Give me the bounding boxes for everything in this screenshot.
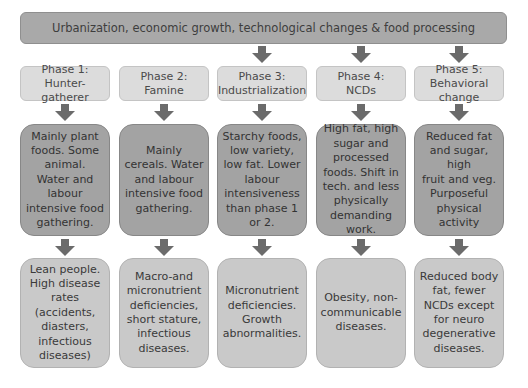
arrow-down-icon — [449, 104, 469, 121]
arrow-down-icon — [449, 46, 469, 63]
arrow-down-icon — [252, 239, 272, 256]
arrow-down-icon — [154, 239, 174, 256]
arrow-down-icon — [449, 239, 469, 256]
arrow-down-icon — [55, 104, 75, 121]
phase-4-diet-box: High fat, high sugar and processed foods… — [316, 124, 406, 236]
phase-5-diet: Reduced fat and sugar, high fruit and ve… — [418, 130, 500, 231]
phase-1-label: Phase 1: Hunter-gatherer — [21, 63, 109, 105]
phase-2-diet-box: Mainly cereals. Water and labour intensi… — [119, 124, 209, 236]
phase-4-label: Phase 4: NCDs — [337, 70, 384, 98]
arrow-down-icon — [351, 46, 371, 63]
phase-4-outcome: Obesity, non- communicable diseases. — [321, 291, 402, 334]
phase-3-label: Phase 3: Industrialization — [218, 70, 306, 98]
phase-3-diet-box: Starchy foods, low variety, low fat. Low… — [217, 124, 307, 236]
phase-5-diet-box: Reduced fat and sugar, high fruit and ve… — [414, 124, 504, 236]
phase-2-outcome: Macro-and micronutrient deficiencies, sh… — [127, 270, 202, 356]
arrow-down-icon — [351, 239, 371, 256]
phase-1-outcome: Lean people. High disease rates (acciden… — [30, 263, 101, 364]
arrow-down-icon — [55, 239, 75, 256]
phase-5-box: Phase 5: Behavioral change — [414, 66, 504, 101]
phase-4-diet: High fat, high sugar and processed foods… — [323, 122, 400, 237]
phase-5-outcome-box: Reduced body fat, fewer NCDs except for … — [414, 258, 504, 368]
phase-4-outcome-box: Obesity, non- communicable diseases. — [316, 258, 406, 368]
phase-2-diet: Mainly cereals. Water and labour intensi… — [125, 144, 204, 216]
phase-5-outcome: Reduced body fat, fewer NCDs except for … — [420, 270, 498, 356]
banner-drivers: Urbanization, economic growth, technolog… — [20, 12, 507, 44]
phase-3-box: Phase 3: Industrialization — [217, 66, 307, 101]
phase-1-diet-box: Mainly plant foods. Some animal. Water a… — [20, 124, 110, 236]
phase-2-label: Phase 2: Famine — [140, 70, 187, 98]
phase-5-label: Phase 5: Behavioral change — [415, 63, 503, 105]
phase-3-diet: Starchy foods, low variety, low fat. Low… — [223, 130, 302, 231]
phase-4-box: Phase 4: NCDs — [316, 66, 406, 101]
phase-1-outcome-box: Lean people. High disease rates (acciden… — [20, 258, 110, 368]
arrow-down-icon — [154, 104, 174, 121]
phase-3-outcome: Micronutrient deficiencies. Growth abnor… — [223, 284, 302, 342]
arrow-down-icon — [252, 104, 272, 121]
phase-2-outcome-box: Macro-and micronutrient deficiencies, sh… — [119, 258, 209, 368]
phase-1-box: Phase 1: Hunter-gatherer — [20, 66, 110, 101]
arrow-down-icon — [252, 46, 272, 63]
arrow-down-icon — [351, 104, 371, 121]
phase-2-box: Phase 2: Famine — [119, 66, 209, 101]
phase-1-diet: Mainly plant foods. Some animal. Water a… — [26, 130, 104, 231]
banner-text: Urbanization, economic growth, technolog… — [52, 21, 475, 35]
phase-3-outcome-box: Micronutrient deficiencies. Growth abnor… — [217, 258, 307, 368]
